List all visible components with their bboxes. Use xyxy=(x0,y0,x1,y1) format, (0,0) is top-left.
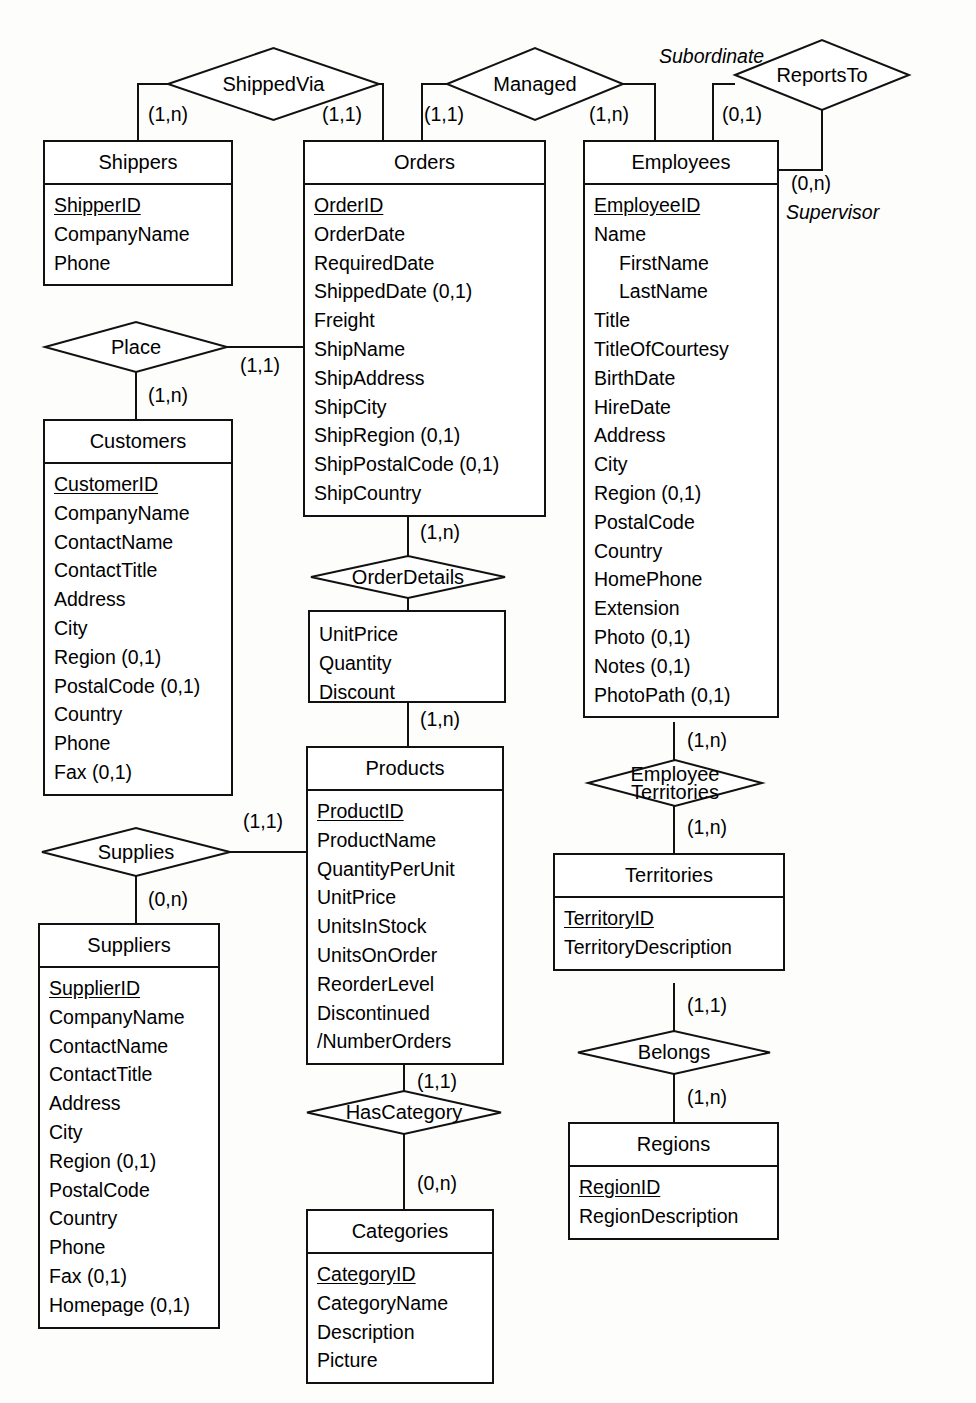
attribute-row: TerritoryDescription xyxy=(555,933,783,962)
entity-orders-name: Orders xyxy=(305,142,544,185)
attribute-row: BirthDate xyxy=(585,364,777,393)
cardinality-reportsto-supervisor: (0,n) xyxy=(791,174,831,194)
attribute-row: QuantityPerUnit xyxy=(308,855,502,884)
attribute-row: LastName xyxy=(585,277,777,306)
relationship-employeeterritories[interactable]: Employee Territories xyxy=(588,760,762,806)
cardinality-shippedvia-orders: (1,1) xyxy=(322,105,362,125)
relationship-supplies[interactable]: Supplies xyxy=(42,828,230,876)
cardinality-hascategory-products: (1,1) xyxy=(417,1072,457,1092)
attribute-row: Photo (0,1) xyxy=(585,623,777,652)
attribute-row: PostalCode xyxy=(585,508,777,537)
attribute-row: OrderID xyxy=(305,191,544,220)
attribute-row: ProductName xyxy=(308,826,502,855)
relationship-place[interactable]: Place xyxy=(45,322,227,372)
attribute-row: Address xyxy=(40,1089,218,1118)
attribute-row: PhotoPath (0,1) xyxy=(585,681,777,710)
entity-products-name: Products xyxy=(308,748,502,791)
attribute-row: City xyxy=(40,1118,218,1147)
cardinality-supplies-products: (1,1) xyxy=(243,812,283,832)
relationship-orderdetails-attributes: UnitPrice Quantity Discount xyxy=(310,612,504,713)
entity-customers-name: Customers xyxy=(45,421,231,464)
relationship-orderdetails[interactable]: OrderDetails xyxy=(311,556,505,598)
entity-regions[interactable]: Regions RegionID RegionDescription xyxy=(568,1122,779,1240)
attribute-row: Country xyxy=(45,700,231,729)
attribute-row: OrderDate xyxy=(305,220,544,249)
entity-territories[interactable]: Territories TerritoryID TerritoryDescrip… xyxy=(553,853,785,971)
cardinality-empterr-territories: (1,n) xyxy=(687,818,727,838)
cardinality-empterr-employees: (1,n) xyxy=(687,731,727,751)
entity-regions-attributes: RegionID RegionDescription xyxy=(570,1167,777,1238)
attribute-row: ShipperID xyxy=(45,191,231,220)
cardinality-supplies-suppliers: (0,n) xyxy=(148,890,188,910)
attribute-row: ShipName xyxy=(305,335,544,364)
attribute-row: HomePhone xyxy=(585,565,777,594)
attribute-row: HireDate xyxy=(585,393,777,422)
attribute-row: UnitPrice xyxy=(308,883,502,912)
entity-customers[interactable]: Customers CustomerID CompanyName Contact… xyxy=(43,419,233,796)
attribute-row: SupplierID xyxy=(40,974,218,1003)
attribute-row: ReorderLevel xyxy=(308,970,502,999)
attribute-row: RegionDescription xyxy=(570,1202,777,1231)
entity-products[interactable]: Products ProductID ProductName QuantityP… xyxy=(306,746,504,1065)
entity-categories-name: Categories xyxy=(308,1211,492,1254)
attribute-row: City xyxy=(585,450,777,479)
attribute-row: UnitPrice xyxy=(310,620,504,649)
attribute-row: ShippedDate (0,1) xyxy=(305,277,544,306)
attribute-row: Quantity xyxy=(310,649,504,678)
relationship-hascategory[interactable]: HasCategory xyxy=(307,1091,501,1134)
relationship-belongs[interactable]: Belongs xyxy=(578,1031,770,1074)
attribute-row: Title xyxy=(585,306,777,335)
attribute-row: Phone xyxy=(45,729,231,758)
attribute-row: Region (0,1) xyxy=(40,1147,218,1176)
entity-employees-name: Employees xyxy=(585,142,777,185)
entity-territories-name: Territories xyxy=(555,855,783,898)
attribute-row: ShipPostalCode (0,1) xyxy=(305,450,544,479)
attribute-row: ShipCity xyxy=(305,393,544,422)
attribute-row: CompanyName xyxy=(45,499,231,528)
attribute-row: ShipAddress xyxy=(305,364,544,393)
entity-categories[interactable]: Categories CategoryID CategoryName Descr… xyxy=(306,1209,494,1384)
attribute-row: UnitsInStock xyxy=(308,912,502,941)
attribute-row: RegionID xyxy=(570,1173,777,1202)
cardinality-place-customers: (1,n) xyxy=(148,386,188,406)
er-diagram-canvas: ShippedVia Managed ReportsTo Place Order xyxy=(0,0,976,1403)
attribute-row: Phone xyxy=(45,249,231,278)
cardinality-managed-orders: (1,1) xyxy=(424,105,464,125)
entity-categories-attributes: CategoryID CategoryName Description Pict… xyxy=(308,1254,492,1382)
entity-shippers[interactable]: Shippers ShipperID CompanyName Phone xyxy=(43,140,233,286)
entity-employees[interactable]: Employees EmployeeID Name FirstName Last… xyxy=(583,140,779,718)
attribute-row: ProductID xyxy=(308,797,502,826)
cardinality-reportsto-subordinate: (0,1) xyxy=(722,105,762,125)
attribute-row: Name xyxy=(585,220,777,249)
cardinality-place-orders: (1,1) xyxy=(240,356,280,376)
attribute-row: Fax (0,1) xyxy=(40,1262,218,1291)
attribute-row: CompanyName xyxy=(40,1003,218,1032)
entity-shippers-name: Shippers xyxy=(45,142,231,185)
attribute-row: ShipCountry xyxy=(305,479,544,508)
attribute-row: Region (0,1) xyxy=(45,643,231,672)
attribute-row: FirstName xyxy=(585,249,777,278)
entity-employees-attributes: EmployeeID Name FirstName LastName Title… xyxy=(585,185,777,716)
cardinality-orderdetails-products: (1,n) xyxy=(420,710,460,730)
cardinality-orderdetails-orders: (1,n) xyxy=(420,523,460,543)
attribute-row: EmployeeID xyxy=(585,191,777,220)
entity-suppliers[interactable]: Suppliers SupplierID CompanyName Contact… xyxy=(38,923,220,1329)
entity-shippers-attributes: ShipperID CompanyName Phone xyxy=(45,185,231,284)
attribute-row: Extension xyxy=(585,594,777,623)
attribute-row: Description xyxy=(308,1318,492,1347)
entity-orders-attributes: OrderID OrderDate RequiredDate ShippedDa… xyxy=(305,185,544,515)
attribute-row: City xyxy=(45,614,231,643)
attribute-row: ShipRegion (0,1) xyxy=(305,421,544,450)
attribute-row: CompanyName xyxy=(45,220,231,249)
role-label-subordinate: Subordinate xyxy=(659,47,764,67)
attribute-row: ContactName xyxy=(40,1032,218,1061)
attribute-row: Address xyxy=(585,421,777,450)
attribute-row: ContactTitle xyxy=(40,1060,218,1089)
link-reportsto-supervisor xyxy=(779,110,822,170)
entity-orders[interactable]: Orders OrderID OrderDate RequiredDate Sh… xyxy=(303,140,546,517)
attribute-row: CustomerID xyxy=(45,470,231,499)
attribute-row: Freight xyxy=(305,306,544,335)
attribute-row: PostalCode xyxy=(40,1176,218,1205)
attribute-row: UnitsOnOrder xyxy=(308,941,502,970)
attribute-row: RequiredDate xyxy=(305,249,544,278)
